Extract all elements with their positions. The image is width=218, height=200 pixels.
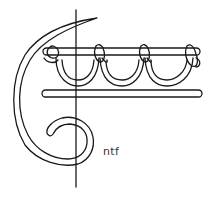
diagram-label: ntf [103,145,119,158]
loop-3 [140,45,200,86]
upper-bar [43,48,200,55]
lower-bar [42,90,202,97]
loop-1 [44,46,99,86]
curved-needle-thread [14,18,97,165]
loop-2 [95,45,144,86]
stitch-diagram-graphic [0,0,218,200]
